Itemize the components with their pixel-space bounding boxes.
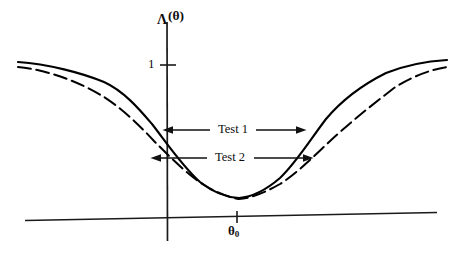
x-tick-label-theta0: θ0 — [228, 224, 239, 237]
theta-subscript: 0 — [235, 229, 240, 239]
y-axis-lambda-glyph: Λ — [157, 13, 167, 27]
x-axis-line — [25, 213, 437, 221]
test-1-arrow-head-right — [296, 126, 307, 134]
y-tick-label-one: 1 — [148, 57, 155, 70]
y-axis-label: (θ) — [168, 9, 184, 23]
theta-glyph: θ — [228, 223, 235, 238]
test-2-arrow-head-left — [151, 154, 162, 162]
figure-canvas: Λ (θ) 1 θ0 Test 1 Test 2 — [0, 0, 457, 257]
test-2-label: Test 2 — [211, 151, 249, 164]
test-1-label: Test 1 — [214, 123, 252, 136]
